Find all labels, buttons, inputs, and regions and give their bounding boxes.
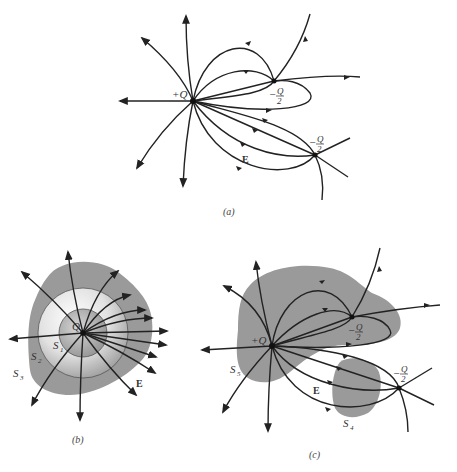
svg-text:5: 5 xyxy=(237,370,241,378)
panel-a: +Q − Q 2 − Q 2 E (a) xyxy=(120,14,360,218)
surface-s4 xyxy=(332,358,380,417)
caption-a: (a) xyxy=(223,206,235,218)
field-label-e-b: E xyxy=(136,378,143,389)
svg-text:4: 4 xyxy=(350,424,354,432)
svg-text:−: − xyxy=(269,88,276,100)
svg-text:−: − xyxy=(348,324,355,336)
figure-canvas: +Q − Q 2 − Q 2 E (a) xyxy=(0,0,457,472)
svg-text:2: 2 xyxy=(401,374,406,384)
positive-charge-c xyxy=(269,343,275,349)
svg-text:2: 2 xyxy=(38,357,42,365)
svg-text:S: S xyxy=(343,417,349,429)
svg-text:Q: Q xyxy=(317,134,324,144)
surface-s5 xyxy=(237,266,401,383)
label-s4: S 4 xyxy=(343,417,354,432)
field-label-e-a: E xyxy=(242,154,249,165)
field-lines-a xyxy=(120,14,360,200)
caption-b: (b) xyxy=(72,434,84,446)
svg-text:−: − xyxy=(393,367,400,379)
negative-charge-c-lower xyxy=(397,386,402,391)
label-minus-q-half-a-upper: − Q 2 xyxy=(269,86,284,106)
caption-c: (c) xyxy=(309,449,321,461)
svg-text:S: S xyxy=(31,350,37,362)
panel-c: +Q − Q 2 − Q 2 S 5 S 4 E (c) xyxy=(202,248,440,461)
label-plus-q-c: +Q xyxy=(251,334,266,346)
label-plus-q-a: +Q xyxy=(172,88,187,100)
svg-text:S: S xyxy=(230,363,236,375)
svg-text:Q: Q xyxy=(401,364,408,374)
panel-b: Q S 1 S 2 S 3 E (b) xyxy=(10,252,167,446)
svg-text:1: 1 xyxy=(60,346,64,354)
negative-charge-c-upper xyxy=(350,315,355,320)
svg-text:2: 2 xyxy=(317,144,322,154)
svg-text:3: 3 xyxy=(19,374,24,382)
svg-text:−: − xyxy=(309,136,316,148)
negative-charge-a-upper xyxy=(272,79,277,84)
label-s3: S 3 xyxy=(13,367,24,382)
svg-text:Q: Q xyxy=(277,86,284,96)
svg-text:2: 2 xyxy=(356,332,361,342)
svg-text:2: 2 xyxy=(277,96,282,106)
svg-text:S: S xyxy=(53,339,59,351)
field-label-e-c: E xyxy=(313,385,320,396)
charge-q-b xyxy=(80,330,86,336)
svg-text:S: S xyxy=(13,367,19,379)
svg-text:Q: Q xyxy=(356,322,363,332)
label-q-b: Q xyxy=(72,320,80,332)
positive-charge-a xyxy=(190,98,196,104)
